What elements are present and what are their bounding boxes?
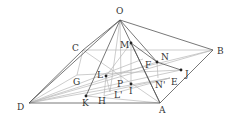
visible-edge-O-D bbox=[29, 20, 120, 103]
point-label-N': N' bbox=[155, 80, 165, 90]
point-label-L: L bbox=[97, 70, 103, 80]
point-N-dot bbox=[156, 61, 159, 64]
hidden-edge-C-G bbox=[77, 50, 83, 75]
point-label-B: B bbox=[217, 46, 224, 56]
point-K-dot bbox=[85, 95, 88, 98]
visible-edge-N-J bbox=[157, 62, 181, 70]
point-label-G: G bbox=[73, 77, 80, 87]
point-label-H: H bbox=[98, 96, 106, 106]
point-label-N: N bbox=[161, 52, 169, 62]
point-label-O: O bbox=[116, 6, 123, 16]
point-label-F: F bbox=[145, 60, 151, 70]
hidden-edge-N-N' bbox=[157, 62, 158, 78]
visible-edge-O-C bbox=[83, 20, 120, 50]
diagram-canvas: OBCDAMNFJEN'LGKHL'PI bbox=[0, 0, 237, 125]
point-I-dot bbox=[130, 83, 133, 86]
visible-edge-M-A bbox=[131, 43, 160, 103]
point-label-M: M bbox=[120, 40, 129, 50]
geometry-diagram: OBCDAMNFJEN'LGKHL'PI bbox=[0, 0, 237, 125]
point-label-K: K bbox=[82, 98, 89, 108]
point-label-P: P bbox=[117, 79, 123, 89]
point-label-C: C bbox=[72, 43, 79, 53]
point-label-I: I bbox=[129, 86, 133, 96]
point-label-L': L' bbox=[114, 90, 122, 100]
point-label-A: A bbox=[158, 105, 166, 115]
point-label-E: E bbox=[171, 77, 178, 87]
point-label-D: D bbox=[17, 102, 24, 112]
hidden-edge-P-O bbox=[120, 20, 121, 80]
point-J-dot bbox=[180, 69, 183, 72]
point-label-J: J bbox=[184, 69, 189, 79]
hidden-edge-L-L' bbox=[106, 76, 110, 92]
point-M-dot bbox=[130, 42, 133, 45]
visible-edge-M-N bbox=[131, 43, 157, 62]
point-L-dot bbox=[105, 75, 108, 78]
